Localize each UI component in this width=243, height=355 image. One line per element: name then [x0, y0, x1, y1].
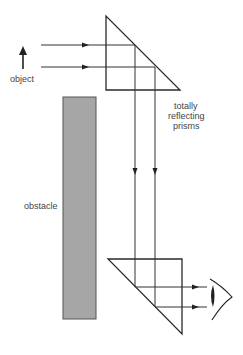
obstacle-label: obstacle	[24, 201, 58, 211]
top-prism	[106, 16, 180, 90]
bottom-prism	[108, 259, 182, 334]
object-label: object	[10, 74, 35, 84]
eye-icon	[210, 279, 232, 320]
object-arrow-icon	[19, 46, 27, 69]
vertical-rays	[133, 45, 158, 307]
obstacle-block	[63, 97, 96, 319]
incoming-rays	[41, 43, 155, 70]
periscope-diagram: object totally reflecting prisms obstacl…	[0, 0, 243, 355]
prisms-label: totally reflecting prisms	[168, 101, 207, 131]
